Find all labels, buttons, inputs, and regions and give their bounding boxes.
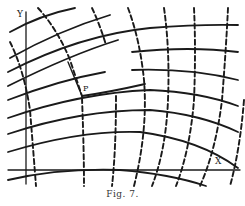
x-axis-label: X xyxy=(215,156,221,166)
figure-7: Y X P Fig. 7. xyxy=(0,0,245,206)
y-axis-label: Y xyxy=(17,9,23,19)
point-p-label: P xyxy=(83,84,88,93)
curvilinear-grid-diagram xyxy=(0,0,245,206)
figure-caption: Fig. 7. xyxy=(0,189,245,199)
solid-curves xyxy=(8,8,238,186)
